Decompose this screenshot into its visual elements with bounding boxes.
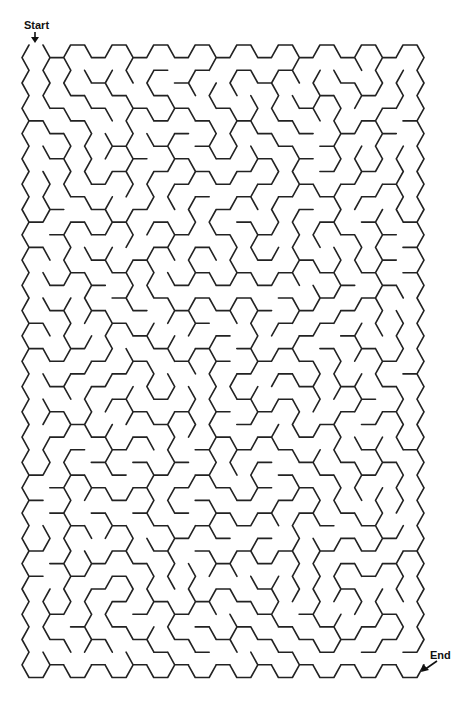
maze-board [0,0,469,709]
end-arrow-icon [421,661,437,672]
maze-wall-paths [22,45,424,678]
end-label: End [430,649,451,661]
maze-walls [22,45,424,678]
start-arrow-icon [31,32,39,43]
start-label: Start [24,19,49,31]
